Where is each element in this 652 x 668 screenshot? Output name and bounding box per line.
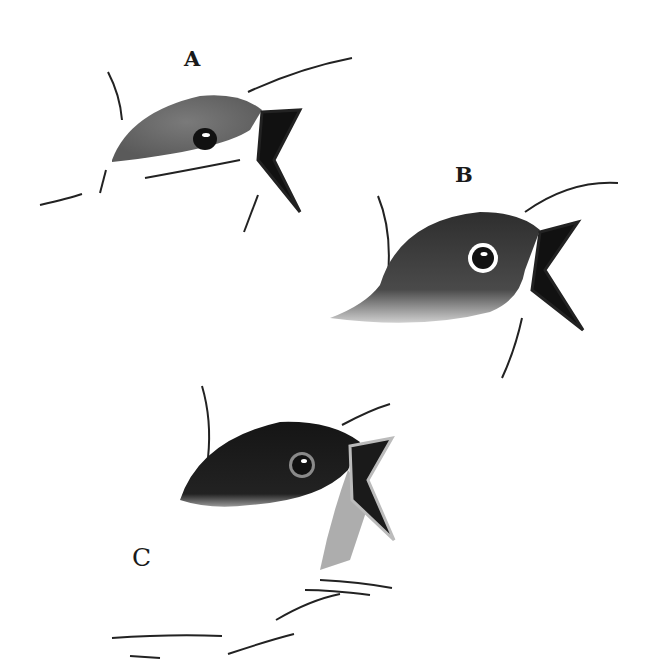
bird-head-b <box>330 183 618 378</box>
bird-head-c <box>112 386 394 658</box>
bird-head-a <box>40 58 352 232</box>
illustration-drawing <box>0 0 652 668</box>
label-a: A <box>184 46 200 71</box>
bird-heads-illustration: A B C <box>0 0 652 668</box>
label-b: B <box>455 162 473 187</box>
label-c: C <box>132 543 151 572</box>
